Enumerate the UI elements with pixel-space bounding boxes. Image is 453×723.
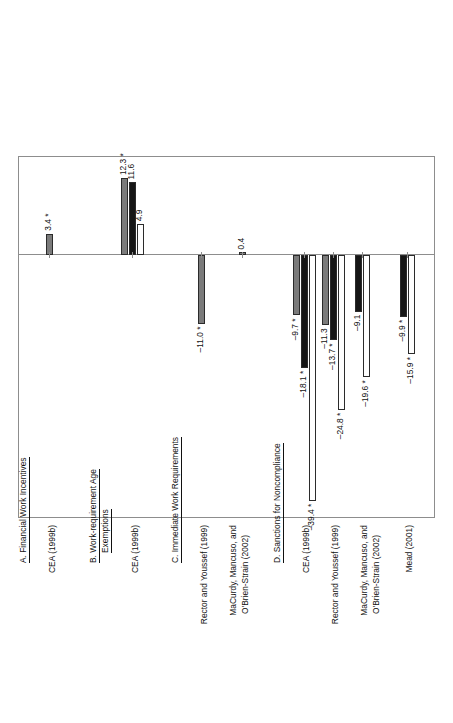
- section-label-a: A. Financial Work Incentives: [18, 457, 28, 563]
- axis-tick: [304, 252, 305, 258]
- bar-value-label: –15.9 *: [406, 357, 415, 384]
- bar: [408, 255, 415, 354]
- category-label-c-macurdy-line2: O'Brien-Strain (2002): [240, 535, 250, 685]
- category-label-c-rector: Rector and Youssef (1999): [199, 525, 209, 675]
- bar: [400, 255, 407, 317]
- bar-value-label: –19.6 *: [361, 380, 370, 407]
- plot-area: 3.4 *12.3 *11.64.9–11.0 *0.4–9.7 *–18.1 …: [18, 156, 435, 518]
- bar-value-label: –9.9 *: [398, 320, 407, 342]
- axis-tick: [49, 252, 50, 258]
- bar: [137, 224, 144, 255]
- bar: [198, 255, 205, 324]
- bar-value-label: –18.1 *: [299, 371, 308, 398]
- bar: [338, 255, 345, 410]
- section-label-b-line2: Exemptions: [100, 509, 110, 553]
- bar: [301, 255, 308, 368]
- category-label-c-macurdy-line1: MaCurdy, Mancuso, and: [228, 525, 238, 685]
- bar: [309, 255, 316, 501]
- category-label-d-macurdy-line1: MaCurdy, Mancuso, and: [359, 525, 369, 685]
- section-label-d: D. Sanctions for Noncompliance: [272, 443, 282, 563]
- bar: [355, 255, 362, 312]
- axis-tick: [242, 252, 243, 258]
- category-label-a-cea: CEA (1999b): [47, 525, 57, 635]
- axis-tick: [132, 252, 133, 258]
- bar-value-label: 0.4: [237, 238, 246, 250]
- category-label-d-cea: CEA (1999b): [301, 525, 311, 635]
- bar: [322, 255, 329, 326]
- figure-canvas: Child < 3 Child < 6 mos. No age exemptio…: [0, 0, 453, 723]
- bar-value-label: 11.6: [127, 164, 136, 180]
- category-label-d-rector: Rector and Youssef (1999): [330, 525, 340, 675]
- bar: [330, 255, 337, 341]
- bar-value-label: –11.0 *: [196, 327, 205, 353]
- section-label-b-line1: B. Work-requirement Age: [88, 469, 98, 563]
- section-label-c: C. Immediate Work Requirements: [170, 437, 180, 563]
- bar: [363, 255, 370, 377]
- bar-value-label: 3.4 *: [44, 213, 53, 230]
- category-label-b-cea: CEA (1999b): [130, 525, 140, 635]
- bar-value-label: –13.7 *: [328, 343, 337, 370]
- axis-tick: [407, 252, 408, 258]
- axis-tick: [362, 252, 363, 258]
- axis-tick: [201, 252, 202, 258]
- category-label-d-mead: Mead (2001): [404, 525, 414, 635]
- bar-value-label: 4.9: [135, 210, 144, 222]
- zero-baseline: [19, 254, 434, 255]
- bar: [121, 178, 128, 255]
- category-label-d-macurdy-line2: O'Brien-Strain (2002): [371, 535, 381, 685]
- bar-value-label: –24.8 *: [336, 413, 345, 440]
- axis-tick: [333, 252, 334, 258]
- bar-value-label: –9.1: [353, 315, 362, 331]
- bar: [293, 255, 300, 316]
- bar-value-label: –9.7 *: [291, 318, 300, 340]
